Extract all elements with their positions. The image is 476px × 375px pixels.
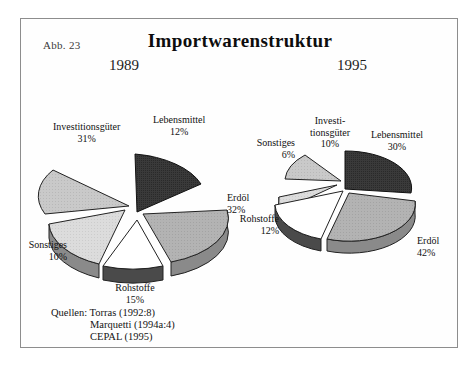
slice-erdoel-1995 [327, 193, 415, 253]
slice-lebensmittel-1989 [135, 154, 201, 212]
slice-lebensmittel-1995 [345, 151, 412, 193]
label-erdoel-1989: Erdöl 32% [227, 192, 249, 215]
figure-title: Importwarenstruktur [21, 30, 459, 52]
label-sonstiges-1995: Sonstiges 6% [231, 137, 295, 160]
source-line-2: Marquetti (1994a:4) [51, 319, 175, 331]
year-label-1989: 1989 [109, 57, 139, 74]
source-line-1: Quellen: Torras (1992:8) [51, 307, 175, 319]
pie-chart-1989: Investitionsgüter 31% Lebensmittel 12% E… [31, 114, 241, 299]
label-erdoel-1995: Erdöl 42% [417, 235, 439, 258]
label-lebensmittel-1995: Lebensmittel 30% [363, 129, 431, 152]
year-label-1995: 1995 [337, 57, 367, 74]
slice-investitionsgueter-1989 [38, 170, 129, 214]
label-rohstoffe-1989: Rohstoffe 15% [103, 282, 167, 305]
label-investitionsgueter-1989: Investitionsgüter 31% [53, 121, 120, 144]
label-sonstiges-1989: Sonstiges 10% [0, 239, 67, 262]
label-rohstoffe-1995: Rohstoffe 12% [217, 213, 279, 236]
source-line-3: CEPAL (1995) [51, 331, 175, 343]
label-investitionsgueter-1995: Investi- tionsgüter 10% [299, 115, 361, 150]
graphic-credit: Grafik: Burchardt [451, 0, 461, 25]
figure-frame: Abb. 23 Importwarenstruktur 1989 1995 Gr… [20, 18, 458, 348]
pie-chart-1995: Investi- tionsgüter 10% Lebensmittel 30%… [259, 127, 439, 287]
label-lebensmittel-1989: Lebensmittel 12% [153, 114, 205, 137]
sources-block: Quellen: Torras (1992:8) Marquetti (1994… [51, 307, 175, 343]
